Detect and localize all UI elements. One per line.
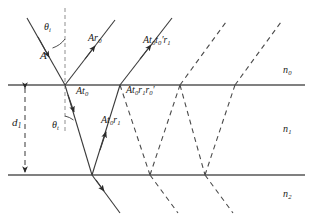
ray-transmitted-out-1	[120, 18, 172, 85]
angle-arc-transmitted	[65, 116, 74, 120]
angle-incident-label: θi	[44, 22, 51, 32]
ray-transmitted-bottom-3-line	[205, 175, 233, 213]
ray-transmitted-out-2-line	[180, 22, 226, 85]
ray-transmitted-out-1-arrow	[140, 45, 151, 59]
refracted-into-film-label: At0	[76, 86, 88, 96]
optics-figure: A Ar0 At0t0′r1 At0 At0r1r0′ At0r1 θi θt …	[0, 0, 313, 221]
ray-internal-up-2	[150, 85, 180, 175]
ray-internal-up-3	[205, 85, 235, 175]
ray-internal-up-2-line	[150, 85, 180, 175]
ray-transmitted-bottom-1-arrow	[96, 180, 104, 191]
ray-transmitted-bottom-2-line	[150, 175, 178, 213]
ray-transmitted-out-3	[235, 22, 281, 85]
ray-internal-down-3-line	[180, 85, 205, 175]
medium-n2-label: n2	[283, 189, 291, 199]
ray-transmitted-bottom-2	[150, 175, 178, 213]
ray-refracted-into-film	[65, 85, 92, 175]
ray-reflected-first-arrow	[85, 46, 95, 59]
transmitted-out-first-label: At0t0′r1	[143, 35, 171, 46]
ray-internal-up-1	[92, 85, 120, 175]
incident-amplitude-label: A	[40, 50, 47, 61]
internal-reflected-first-label: At0r1	[101, 115, 120, 126]
angle-transmitted-label: θt	[52, 120, 59, 130]
ray-refracted-arrow	[68, 95, 74, 112]
reflected-first-label: Ar0	[88, 33, 101, 43]
ray-internal-down-2	[120, 85, 150, 175]
ray-internal-down-3	[180, 85, 205, 175]
ray-transmitted-out-3-line	[235, 22, 281, 85]
interface-lines	[8, 85, 305, 175]
ray-reflected-first	[65, 20, 115, 85]
figure-canvas	[0, 0, 313, 221]
film-thickness-label: d1	[12, 117, 21, 128]
ray-internal-up-1-arrow	[100, 132, 106, 150]
ray-internal-down-2-line	[120, 85, 150, 175]
medium-n0-label: n0	[283, 65, 291, 75]
internal-double-reflection-label: At0r1r0′	[126, 85, 155, 96]
angle-arc-incident	[53, 39, 66, 48]
medium-n1-label: n1	[283, 124, 291, 134]
ray-transmitted-bottom-3	[205, 175, 233, 213]
ray-transmitted-out-2	[180, 22, 226, 85]
ray-internal-up-1-line	[92, 85, 120, 175]
ray-internal-up-3-line	[205, 85, 235, 175]
ray-transmitted-bottom-1	[92, 175, 120, 213]
